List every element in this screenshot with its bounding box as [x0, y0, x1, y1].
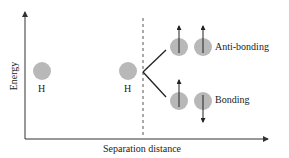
split-line-up — [143, 50, 166, 72]
energy-diagram — [0, 0, 289, 158]
split-line-down — [143, 72, 166, 97]
x-axis-label: Separation distance — [103, 144, 181, 154]
atom-orbital-right — [119, 62, 137, 80]
atom-label-left: H — [38, 84, 45, 94]
atom-orbital-left — [33, 62, 51, 80]
atom-label-right: H — [124, 84, 131, 94]
y-axis-label: Energy — [9, 56, 19, 96]
bonding-label: Bonding — [215, 95, 249, 105]
antibonding-label: Anti-bonding — [215, 42, 269, 52]
